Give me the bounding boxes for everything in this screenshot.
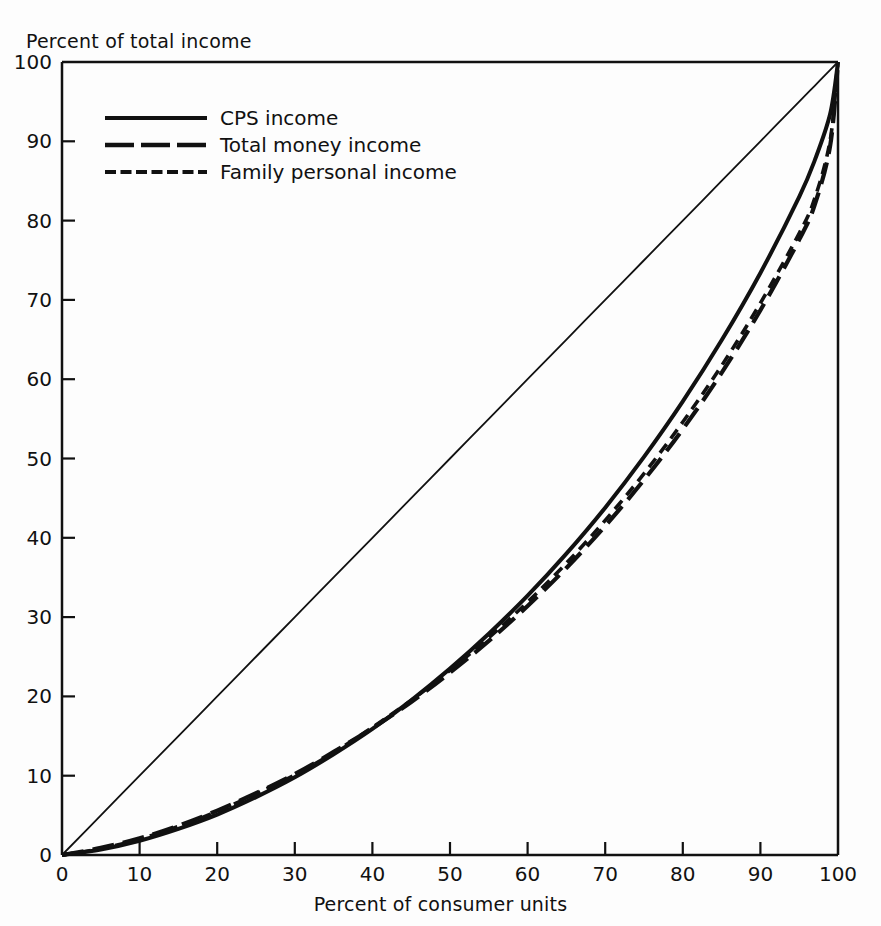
- x-tick-label: 70: [575, 862, 635, 886]
- x-tick-label: 90: [730, 862, 790, 886]
- y-tick-label: 50: [0, 447, 52, 471]
- y-tick-label: 60: [0, 367, 52, 391]
- x-tick-label: 100: [808, 862, 868, 886]
- y-tick-label: 80: [0, 209, 52, 233]
- x-tick-label: 80: [653, 862, 713, 886]
- y-axis-title: Percent of total income: [26, 30, 252, 52]
- chart-legend: CPS incomeTotal money incomeFamily perso…: [104, 104, 434, 185]
- x-axis-title: Percent of consumer units: [0, 893, 881, 915]
- x-tick-label: 20: [187, 862, 247, 886]
- x-tick-label: 10: [110, 862, 170, 886]
- y-tick-label: 100: [0, 50, 52, 74]
- y-tick-label: 30: [0, 605, 52, 629]
- legend-label: CPS income: [220, 108, 338, 128]
- legend-row: Family personal income: [104, 158, 434, 185]
- legend-row: Total money income: [104, 131, 434, 158]
- x-tick-label: 40: [342, 862, 402, 886]
- legend-line-sample-solid: [104, 111, 208, 125]
- x-tick-label: 0: [32, 862, 92, 886]
- x-tick-label: 50: [420, 862, 480, 886]
- lorenz-curve-figure: Percent of total income 0102030405060708…: [0, 0, 881, 926]
- y-tick-label: 20: [0, 684, 52, 708]
- legend-row: CPS income: [104, 104, 434, 131]
- legend-line-sample-long-dash: [104, 138, 208, 152]
- y-tick-label: 10: [0, 764, 52, 788]
- x-tick-label: 60: [498, 862, 558, 886]
- legend-label: Total money income: [220, 135, 421, 155]
- legend-line-sample-short-dash: [104, 165, 208, 179]
- y-tick-label: 70: [0, 288, 52, 312]
- x-tick-label: 30: [265, 862, 325, 886]
- y-tick-label: 40: [0, 526, 52, 550]
- legend-label: Family personal income: [220, 162, 457, 182]
- y-tick-label: 90: [0, 129, 52, 153]
